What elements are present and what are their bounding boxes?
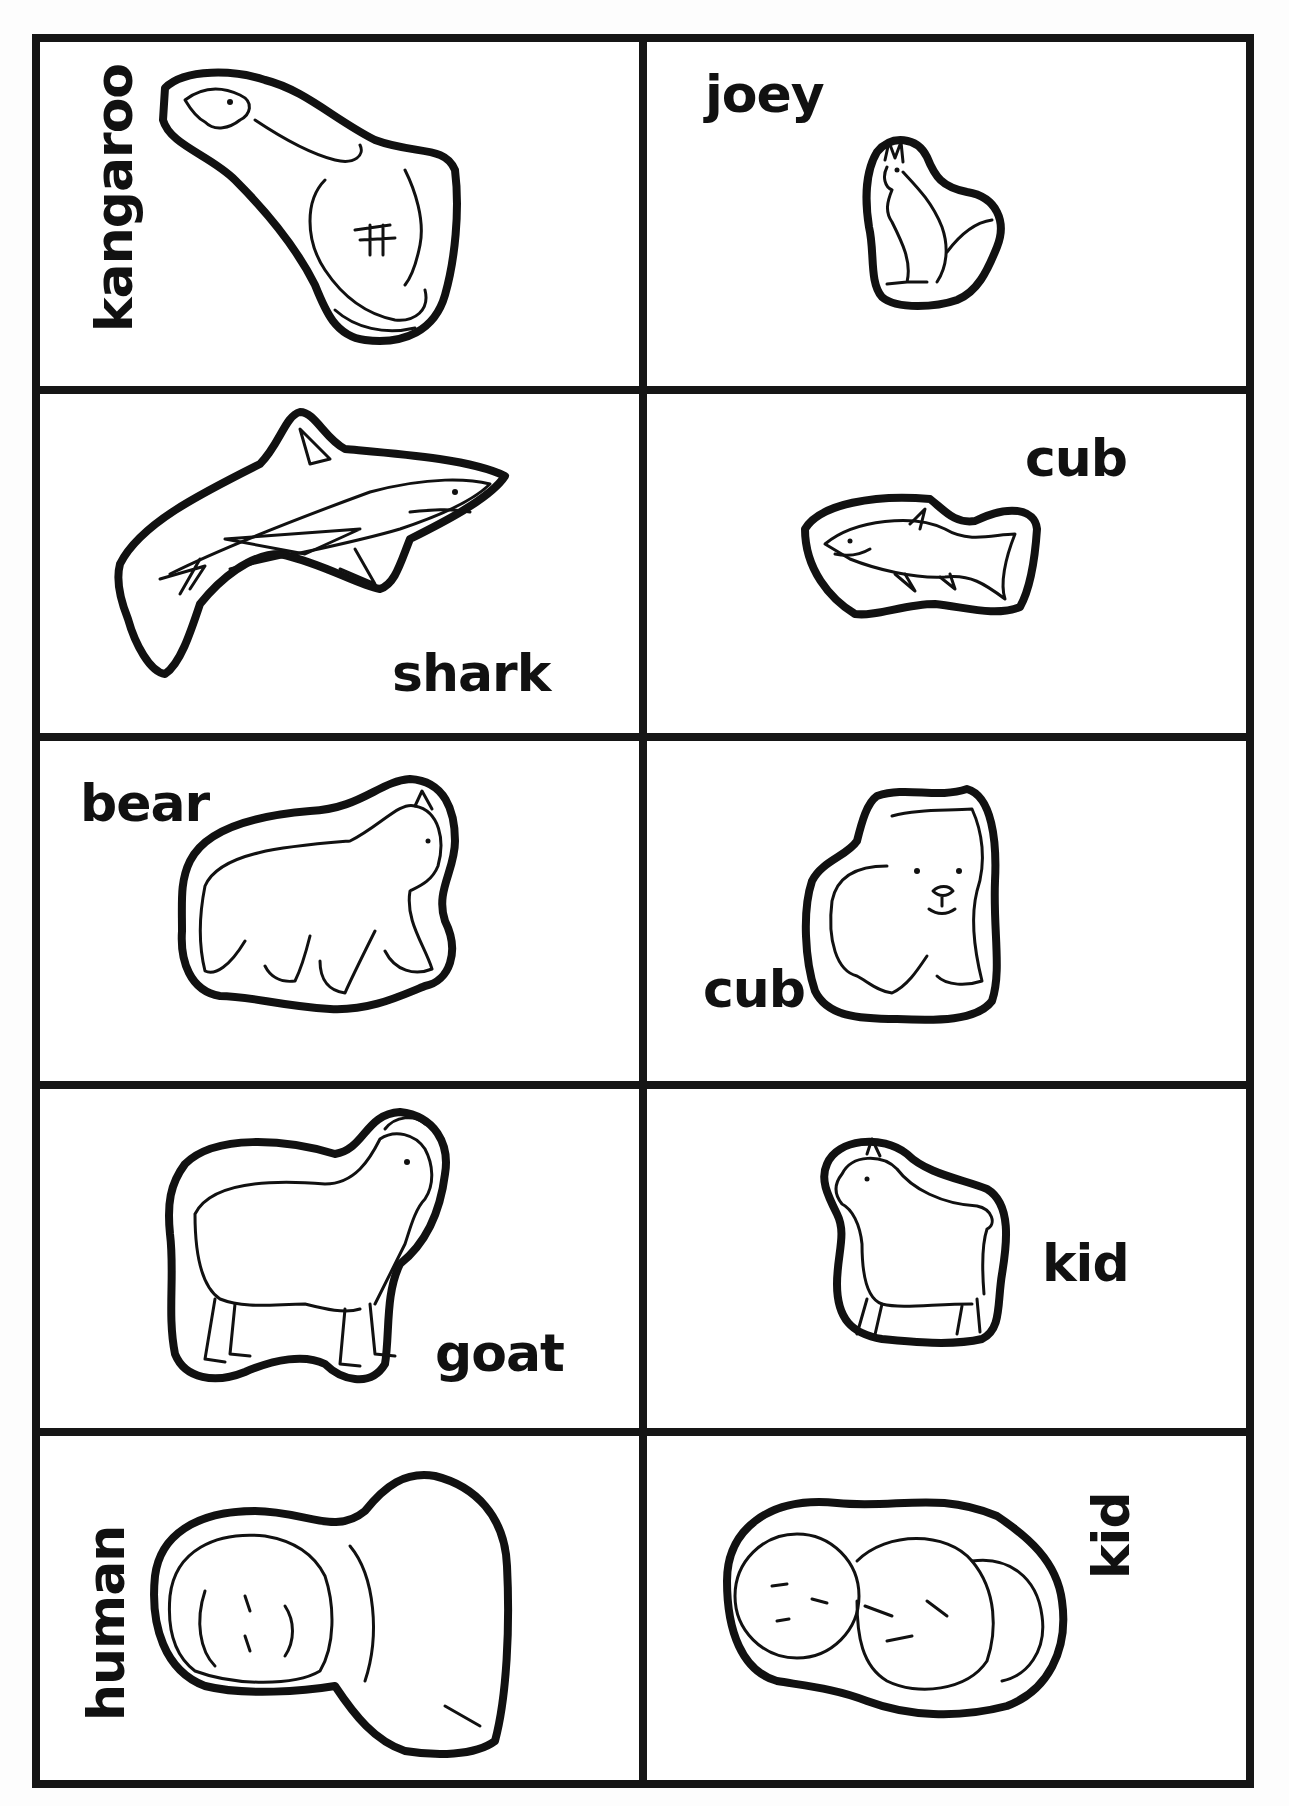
card-bear: bear <box>40 737 643 1085</box>
card-label: kangaroo <box>88 64 140 332</box>
card-baby: kid <box>643 1432 1246 1780</box>
card-label: kid <box>1042 1237 1129 1289</box>
bear-illustration <box>170 771 470 1021</box>
card-label: cub <box>703 963 805 1015</box>
card-bear-cub: cub <box>643 737 1246 1085</box>
card-joey: joey <box>643 42 1246 390</box>
card-kangaroo: kangaroo <box>40 42 643 390</box>
card-goat-kid: kid <box>643 1085 1246 1433</box>
kangaroo-joey-icon <box>857 132 1017 312</box>
adult-human-icon <box>135 1456 515 1766</box>
bear-cub-icon <box>797 781 1002 1031</box>
card-goat: goat <box>40 1085 643 1433</box>
goat-kid-illustration <box>812 1134 1012 1349</box>
joey-illustration <box>857 132 1017 312</box>
human-illustration <box>135 1456 515 1766</box>
bear-icon <box>170 771 470 1021</box>
card-shark-cub: cub <box>643 390 1246 738</box>
worksheet-page: kangaroo joey <box>0 0 1289 1806</box>
card-shark: shark <box>40 390 643 738</box>
card-grid: kangaroo joey <box>32 34 1254 1788</box>
goat-illustration <box>155 1104 455 1394</box>
shark-cub-icon <box>795 489 1045 624</box>
shark-cub-illustration <box>795 489 1045 624</box>
kangaroo-icon <box>155 60 495 350</box>
card-label: kid <box>1085 1493 1137 1580</box>
baby-illustration <box>717 1491 1072 1721</box>
goat-icon <box>155 1104 455 1394</box>
card-label: human <box>80 1526 132 1721</box>
shark-icon <box>110 404 520 684</box>
card-human: human <box>40 1432 643 1780</box>
goat-kid-icon <box>812 1134 1012 1349</box>
shark-illustration <box>110 404 520 684</box>
card-label: cub <box>1025 432 1127 484</box>
bear-cub-illustration <box>797 781 1002 1031</box>
kangaroo-illustration <box>155 60 495 350</box>
baby-icon <box>717 1491 1072 1721</box>
card-label: joey <box>705 68 824 120</box>
